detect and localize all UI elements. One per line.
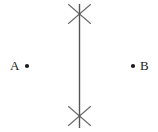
point-label-a: A <box>10 59 19 72</box>
geometry-figure: A B <box>0 0 158 132</box>
point-dot-b <box>131 64 135 68</box>
point-dot-a <box>25 64 29 68</box>
construction-drawing <box>0 0 158 132</box>
point-label-b: B <box>140 59 149 72</box>
